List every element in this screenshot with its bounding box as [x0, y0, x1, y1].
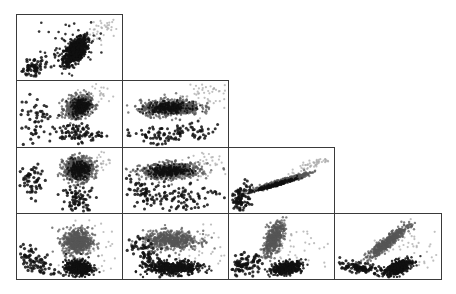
scatter-panel-r3-c2 — [228, 213, 335, 280]
scatter-panel-r2-c0 — [16, 147, 123, 214]
scatter-points — [17, 15, 123, 81]
scatter-panel-r2-c1 — [122, 147, 229, 214]
scatter-panel-r3-c3 — [334, 213, 442, 280]
scatter-points — [17, 148, 123, 214]
scatterplot-matrix — [0, 0, 456, 294]
scatter-points — [123, 214, 229, 280]
scatter-panel-r1-c1 — [122, 80, 229, 148]
scatter-points — [123, 81, 229, 148]
scatter-panel-r3-c1 — [122, 213, 229, 280]
scatter-panel-r3-c0 — [16, 213, 123, 280]
scatter-panel-r0-c0 — [16, 14, 123, 81]
scatter-points — [123, 148, 229, 214]
scatter-points — [229, 148, 335, 214]
scatter-points — [229, 214, 335, 280]
scatter-points — [335, 214, 442, 280]
scatter-panel-r2-c2 — [228, 147, 335, 214]
scatter-points — [17, 214, 123, 280]
scatter-points — [17, 81, 123, 148]
scatter-panel-r1-c0 — [16, 80, 123, 148]
